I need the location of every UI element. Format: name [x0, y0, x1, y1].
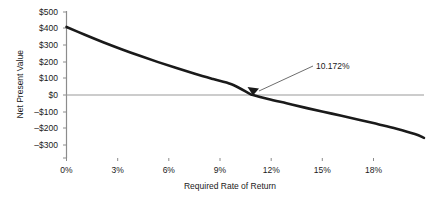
y-tick-label: $500 — [16, 8, 58, 17]
x-tick-label: 3% — [98, 166, 138, 175]
irr-annotation-label: 10.172% — [316, 62, 350, 71]
annotation-leader-line — [259, 66, 313, 91]
x-tick-label: 9% — [200, 166, 240, 175]
x-tick-marks — [67, 158, 374, 161]
x-axis-title: Required Rate of Return — [130, 182, 330, 191]
x-tick-label: 15% — [302, 166, 342, 175]
x-tick-label: 12% — [251, 166, 291, 175]
x-tick-label: 0% — [47, 166, 87, 175]
npv-profile-chart: $500 $400 $300 $200 $100 $0 –$100 –$200 … — [0, 0, 430, 204]
x-tick-label: 6% — [149, 166, 189, 175]
x-tick-label: 18% — [354, 166, 394, 175]
y-tick-label: $400 — [16, 24, 58, 33]
y-axis-title: Net Present Value — [16, 34, 25, 134]
y-tick-label: –$300 — [16, 141, 58, 150]
npv-curve — [67, 27, 425, 138]
